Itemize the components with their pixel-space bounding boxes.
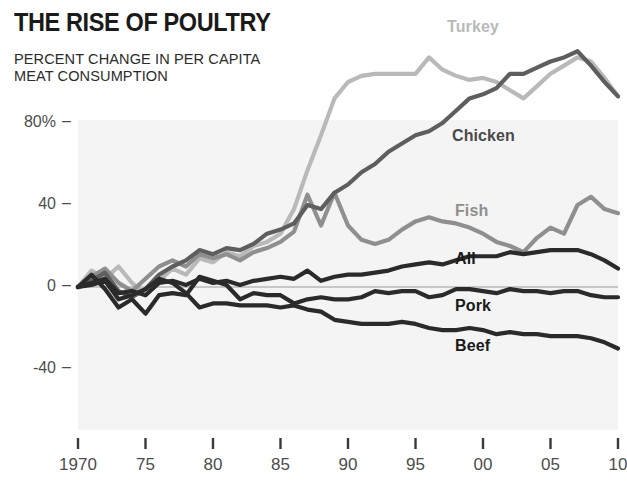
y-tick-label: 40 [0, 195, 56, 213]
series-label-pork: Pork [455, 297, 491, 315]
series-lines [78, 51, 618, 348]
series-label-turkey: Turkey [447, 18, 499, 36]
x-tick-label: 85 [271, 455, 290, 475]
y-tick-label: -40 [0, 359, 56, 377]
y-tick-dash: – [62, 112, 71, 130]
x-tick-label: 05 [541, 455, 560, 475]
x-tick-label: 1970 [59, 455, 97, 475]
x-tick-label: 75 [136, 455, 155, 475]
y-tick-label: 0 [0, 277, 56, 295]
x-tick-label: 00 [474, 455, 493, 475]
series-line-turkey [78, 57, 618, 295]
series-label-beef: Beef [455, 337, 490, 355]
x-tick-label: 80 [204, 455, 223, 475]
y-tick-dash: – [62, 194, 71, 212]
y-tick-dash: – [62, 276, 71, 294]
series-label-chicken: Chicken [452, 127, 515, 145]
x-tick-label: 95 [406, 455, 425, 475]
x-tick-label: 10 [609, 455, 627, 475]
y-tick-label: 80% [0, 113, 56, 131]
series-label-all: All [455, 250, 476, 268]
x-axis-ticks [78, 438, 618, 449]
y-tick-dash: – [62, 358, 71, 376]
x-tick-label: 90 [339, 455, 358, 475]
series-label-fish: Fish [455, 202, 488, 220]
